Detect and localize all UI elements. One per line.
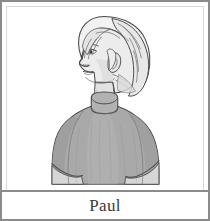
shirt-collar — [91, 92, 117, 114]
portrait-illustration — [2, 2, 208, 190]
lower-lip — [84, 73, 92, 74]
portrait-panel — [2, 2, 208, 190]
person-name-label: Paul — [89, 197, 120, 214]
name-label-bar: Paul — [2, 192, 208, 219]
torso-shirt-group — [52, 105, 159, 184]
portrait-card: Paul — [0, 0, 210, 221]
